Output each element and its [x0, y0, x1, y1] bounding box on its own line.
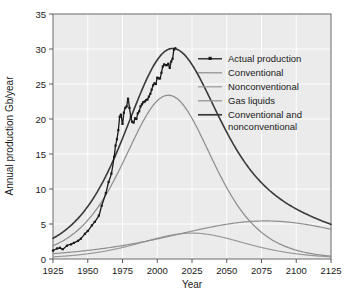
data-point-marker: [170, 61, 172, 63]
data-point-marker: [94, 221, 96, 223]
data-point-marker: [139, 105, 141, 107]
data-point-marker: [62, 248, 64, 250]
data-point-marker: [101, 205, 103, 207]
data-point-marker: [119, 116, 121, 118]
x-tick-label: 2050: [216, 265, 237, 276]
legend-label[interactable]: Conventional and: [228, 109, 302, 120]
data-point-marker: [91, 224, 93, 226]
data-point-marker: [130, 116, 132, 118]
oil-production-chart: 192519501975200020252050207521002125 051…: [0, 0, 348, 299]
data-point-marker: [167, 63, 169, 65]
data-point-marker: [116, 138, 118, 140]
data-point-marker: [84, 233, 86, 235]
data-point-marker: [70, 243, 72, 245]
legend-marker-sample: [209, 57, 212, 60]
data-point-marker: [114, 145, 116, 147]
data-point-marker: [152, 84, 154, 86]
data-point-marker: [155, 83, 157, 85]
data-point-marker: [56, 247, 58, 249]
data-point-marker: [113, 156, 115, 158]
y-tick-label: 10: [35, 184, 46, 195]
chart-figure: 192519501975200020252050207521002125 051…: [0, 0, 348, 299]
legend-label[interactable]: Conventional: [228, 67, 283, 78]
data-point-marker: [123, 112, 125, 114]
y-tick-label: 15: [35, 149, 46, 160]
data-point-marker: [174, 47, 176, 49]
data-point-marker: [148, 96, 150, 98]
x-tick-label: 2100: [286, 265, 307, 276]
data-point-marker: [108, 181, 110, 183]
data-point-marker: [110, 173, 112, 175]
data-point-marker: [135, 118, 137, 120]
data-point-marker: [127, 98, 129, 100]
x-tick-label: 1975: [112, 265, 133, 276]
y-tick-label: 30: [35, 44, 46, 55]
data-point-marker: [128, 107, 130, 109]
data-point-marker: [121, 123, 123, 125]
data-point-marker: [151, 89, 153, 91]
data-point-marker: [141, 103, 143, 105]
x-axis-tick-labels: 192519501975200020252050207521002125: [42, 265, 341, 276]
data-point-marker: [146, 98, 148, 100]
y-tick-label: 25: [35, 79, 46, 90]
data-point-marker: [162, 65, 164, 67]
data-point-marker: [137, 112, 139, 114]
y-axis-tick-labels: 05101520253035: [35, 9, 46, 265]
data-point-marker: [52, 250, 54, 252]
data-point-marker: [98, 215, 100, 217]
data-point-marker: [59, 247, 61, 249]
data-point-marker: [73, 242, 75, 244]
x-tick-label: 2125: [320, 265, 341, 276]
legend-label[interactable]: Nonconventional: [228, 81, 299, 92]
data-point-marker: [159, 77, 161, 79]
x-axis-title: Year: [182, 279, 203, 290]
legend-label-continued: nonconventional: [228, 121, 297, 132]
y-axis-title: Annual production Gb/year: [4, 76, 15, 196]
legend-label[interactable]: Actual production: [228, 53, 301, 64]
data-point-marker: [105, 192, 107, 194]
y-tick-label: 5: [41, 219, 46, 230]
x-tick-label: 2000: [147, 265, 168, 276]
x-tick-label: 2075: [251, 265, 272, 276]
data-point-marker: [77, 240, 79, 242]
data-point-marker: [126, 105, 128, 107]
data-point-marker: [160, 72, 162, 74]
data-point-marker: [149, 93, 151, 95]
data-point-marker: [80, 238, 82, 240]
x-tick-label: 2025: [181, 265, 202, 276]
y-tick-label: 20: [35, 114, 46, 125]
data-point-marker: [66, 245, 68, 247]
data-point-marker: [133, 121, 135, 123]
data-point-marker: [117, 129, 119, 131]
data-point-marker: [171, 58, 173, 60]
data-point-marker: [87, 230, 89, 232]
x-tick-label: 1925: [42, 265, 63, 276]
x-tick-label: 1950: [77, 265, 98, 276]
y-tick-label: 35: [35, 9, 46, 20]
legend-label[interactable]: Gas liquids: [228, 95, 275, 106]
data-point-marker: [120, 114, 122, 116]
data-point-marker: [169, 67, 171, 69]
data-point-marker: [138, 110, 140, 112]
y-tick-label: 0: [41, 254, 46, 265]
